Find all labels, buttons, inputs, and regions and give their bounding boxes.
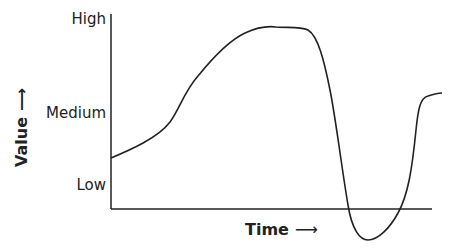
y-axis-label: Value (12, 117, 31, 167)
x-axis-title: Time ⟶ (245, 220, 318, 239)
y-axis-title: Value ⟶ (12, 88, 31, 167)
arrow-right-icon: ⟶ (12, 88, 31, 111)
y-tick-high: High (72, 10, 106, 28)
y-tick-medium: Medium (46, 104, 106, 122)
chart-plot-area (0, 0, 459, 251)
arrow-right-icon: ⟶ (295, 220, 318, 239)
value-curve (111, 27, 442, 240)
y-tick-low: Low (76, 176, 106, 194)
x-axis-label: Time (245, 220, 289, 239)
